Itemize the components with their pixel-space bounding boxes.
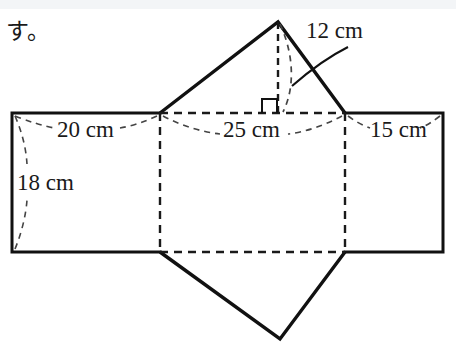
dimension-label-side-15cm: 15 cm [370, 117, 427, 143]
leader-15cm-left [348, 116, 370, 128]
right-angle-marker [262, 99, 277, 113]
dimension-label-depth-18cm: 18 cm [17, 170, 74, 196]
leader-20cm-left [15, 116, 54, 128]
dimension-label-height-12cm: 12 cm [306, 18, 363, 44]
leader-18cm-lower [15, 200, 27, 249]
leader-20cm-right [120, 116, 157, 128]
leader-25cm-right [288, 116, 342, 134]
japanese-prompt-fragment: す。 [6, 12, 50, 46]
bottom-triangle-outline [160, 252, 345, 339]
dimension-label-base-25cm: 25 cm [223, 117, 280, 143]
geometry-figure-canvas: す。 12 cm 20 cm 25 cm 15 cm 18 cm [0, 0, 456, 349]
leader-18cm-upper [15, 116, 27, 164]
leader-25cm-left [163, 116, 220, 134]
dimension-label-side-20cm: 20 cm [57, 117, 114, 143]
